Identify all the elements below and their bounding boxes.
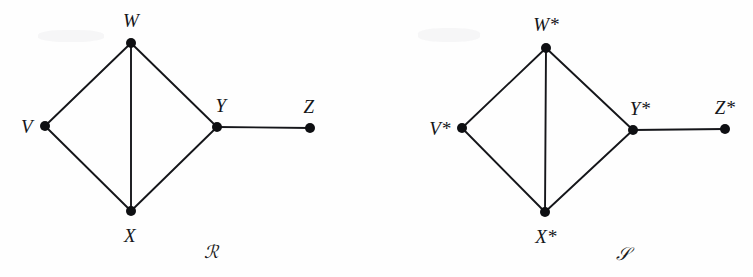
graph-edge-Vs-Xs <box>462 128 545 212</box>
graph-vertex-Xs <box>540 207 550 217</box>
graph-caption-graph-R: ℛ <box>204 243 218 261</box>
graph-edge-Xs-Ys <box>545 130 633 212</box>
graph-edge-Ws-Xs <box>545 48 546 212</box>
graph-vertex-Ws <box>541 43 551 53</box>
graph-drawing <box>0 0 753 277</box>
vertex-label-Xs: X* <box>535 227 557 246</box>
graph-edge-Ys-Zs <box>633 129 725 130</box>
graph-vertex-Ys <box>628 125 638 135</box>
graph-edge-V-W <box>45 43 131 126</box>
graph-vertex-W <box>126 38 136 48</box>
graph-edge-W-Y <box>131 43 217 127</box>
graph-vertex-Vs <box>457 123 467 133</box>
vertex-label-Zs: Z* <box>715 98 735 117</box>
graph-vertex-Y <box>212 122 222 132</box>
vertex-label-Y: Y <box>216 96 227 115</box>
graph-edge-Ws-Ys <box>546 48 633 130</box>
vertices-layer <box>40 38 730 217</box>
vertex-label-Vs: V* <box>429 119 451 138</box>
graph-edge-X-Y <box>131 127 217 211</box>
vertex-label-Z: Z <box>304 97 315 116</box>
vertex-label-X: X <box>124 226 136 245</box>
vertex-label-Ys: Y* <box>630 99 650 118</box>
figure-canvas: VWXYZℛV*W*X*Y*Z*𝒮 <box>0 0 753 277</box>
graph-vertex-Zs <box>720 124 730 134</box>
graph-edge-Vs-Ws <box>462 48 546 128</box>
graph-vertex-X <box>126 206 136 216</box>
vertex-label-Ws: W* <box>533 15 559 34</box>
vertex-label-V: V <box>21 117 33 136</box>
graph-vertex-Z <box>305 123 315 133</box>
graph-edge-Y-Z <box>217 127 310 128</box>
edges-layer <box>45 43 725 212</box>
graph-edge-V-X <box>45 126 131 211</box>
graph-caption-graph-S: 𝒮 <box>616 245 630 263</box>
vertex-label-W: W <box>123 11 139 30</box>
graph-vertex-V <box>40 121 50 131</box>
